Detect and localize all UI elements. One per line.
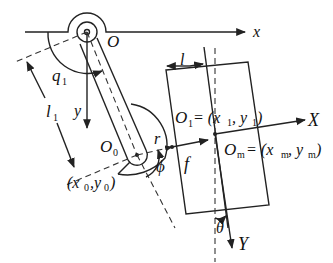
l1-arrow-up bbox=[27, 62, 45, 98]
svg-text:,y: ,y bbox=[90, 174, 102, 192]
svg-text:, y: , y bbox=[232, 109, 248, 127]
label-origin: O bbox=[107, 32, 119, 51]
svg-text:O: O bbox=[175, 108, 187, 127]
svg-text:m: m bbox=[237, 149, 245, 160]
label-l1: l 1 bbox=[46, 102, 58, 123]
label-o0: O 0 bbox=[100, 137, 118, 158]
label-phi: ϕ bbox=[156, 157, 165, 176]
svg-text:1: 1 bbox=[62, 76, 67, 87]
label-body-x: X bbox=[307, 110, 320, 130]
svg-text:): ) bbox=[315, 141, 321, 159]
label-y-axis: y bbox=[72, 102, 82, 120]
l-offset-arrow-right bbox=[190, 64, 203, 66]
svg-text:): ) bbox=[256, 109, 262, 127]
l1-arrow-down bbox=[57, 123, 74, 167]
svg-text:): ) bbox=[109, 174, 115, 192]
svg-text:m: m bbox=[308, 149, 316, 160]
svg-text:q: q bbox=[52, 66, 61, 85]
label-r: r bbox=[154, 130, 161, 147]
label-theta: θ bbox=[216, 219, 224, 236]
label-q1: q 1 bbox=[52, 66, 67, 87]
svg-text:(x: (x bbox=[67, 174, 79, 192]
label-om-eq: O m = (x m , y m ) bbox=[224, 140, 321, 160]
svg-text:1: 1 bbox=[53, 112, 58, 123]
base-x-axis bbox=[25, 13, 245, 32]
label-l: l bbox=[180, 51, 185, 68]
force-f-arrow bbox=[172, 140, 208, 147]
svg-text:O: O bbox=[224, 140, 236, 159]
svg-text:O: O bbox=[100, 137, 112, 156]
rectangular-body bbox=[166, 62, 269, 214]
label-x0-y0: (x 0 ,y 0 ) bbox=[67, 174, 115, 193]
svg-text:= (x: = (x bbox=[246, 141, 273, 159]
svg-text:, y: , y bbox=[288, 141, 304, 159]
svg-text:0: 0 bbox=[113, 147, 118, 158]
label-o1-eq: O 1 = (x 1 , y 1 ) bbox=[175, 108, 262, 129]
svg-text:= (x: = (x bbox=[193, 109, 220, 127]
label-body-y: Y bbox=[238, 234, 250, 254]
svg-text:0: 0 bbox=[84, 182, 89, 193]
label-f: f bbox=[184, 154, 192, 174]
label-x-axis: x bbox=[252, 23, 260, 40]
mechanism-diagram: O x y q 1 l 1 O 0 (x 0 ,y 0 ) r ϕ f l O … bbox=[0, 0, 333, 263]
gripper-edge bbox=[118, 162, 130, 174]
svg-text:0: 0 bbox=[104, 182, 109, 193]
svg-text:l: l bbox=[46, 102, 51, 121]
